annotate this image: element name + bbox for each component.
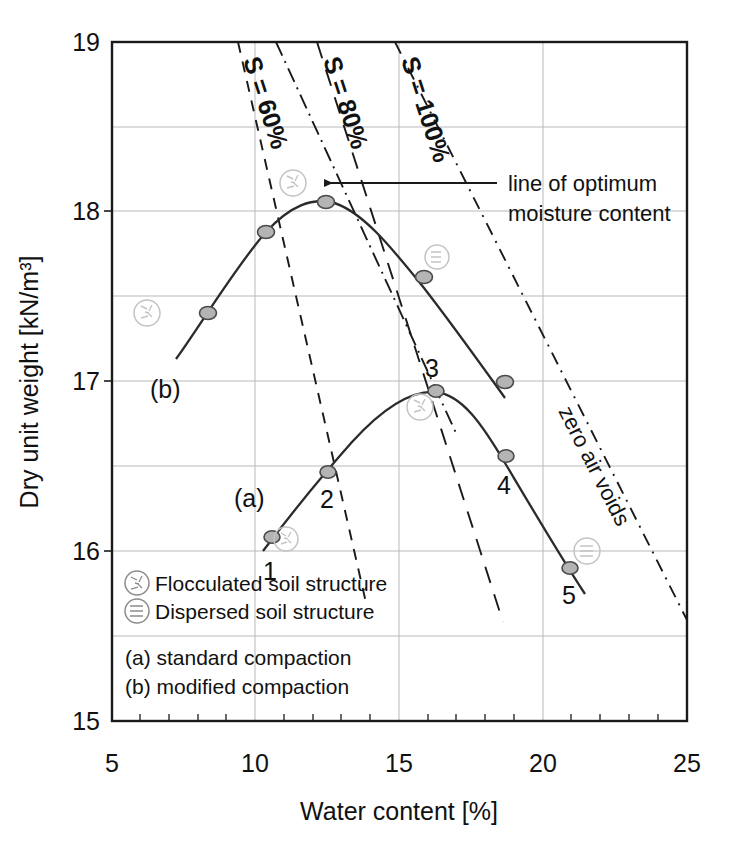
y-axis-title: Dry unit weight [kN/m³] [15, 256, 43, 509]
x-tick-15: 15 [385, 749, 413, 777]
y-tick-16: 16 [72, 537, 100, 565]
y-tick-18: 18 [72, 197, 100, 225]
point-label-3: 3 [425, 354, 439, 382]
optimum-annotation-line2: moisture content [508, 201, 671, 226]
legend-modified-compaction: (b) modified compaction [125, 675, 349, 698]
x-tick-5: 5 [105, 749, 119, 777]
curve-label-b: (b) [150, 375, 181, 403]
curve-label-a: (a) [234, 484, 265, 512]
legend-standard-compaction: (a) standard compaction [125, 646, 351, 669]
point-label-4: 4 [497, 471, 511, 499]
point-label-5: 5 [562, 581, 576, 609]
legend-flocculated-label: Flocculated soil structure [155, 572, 387, 595]
y-tick-17: 17 [72, 367, 100, 395]
chart-canvas: S = 60% S = 80% S = 100% zero air voids … [0, 0, 732, 848]
x-tick-20: 20 [529, 749, 557, 777]
y-tick-19: 19 [72, 28, 100, 56]
y-tick-15: 15 [72, 707, 100, 735]
legend-dispersed-label: Dispersed soil structure [155, 600, 374, 623]
compaction-curve-figure: S = 60% S = 80% S = 100% zero air voids … [0, 0, 732, 848]
point-label-2: 2 [320, 485, 334, 513]
x-axis-title: Water content [%] [300, 797, 498, 825]
x-tick-10: 10 [241, 749, 269, 777]
optimum-annotation-line1: line of optimum [508, 171, 657, 196]
x-tick-25: 25 [673, 749, 701, 777]
